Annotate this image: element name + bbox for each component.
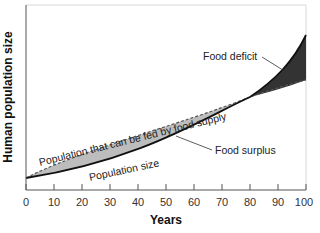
x-tick-labels: 0 10 20 30 40 50 60 70 80 90 100 (23, 196, 313, 208)
x-tick-label: 80 (244, 196, 256, 208)
x-tick-label: 0 (23, 196, 29, 208)
x-tick-label: 20 (76, 196, 88, 208)
x-tick-label: 50 (160, 196, 172, 208)
x-tick-label: 10 (48, 196, 60, 208)
x-tick-label: 60 (188, 196, 200, 208)
x-ticks (26, 184, 306, 190)
y-axis-title: Human population size (1, 31, 15, 163)
food-deficit-label: Food deficit (203, 50, 257, 62)
x-axis-title: Years (150, 213, 182, 227)
x-tick-label: 70 (216, 196, 228, 208)
food-deficit-leader (262, 57, 286, 72)
food-surplus-leader (176, 136, 212, 150)
x-tick-label: 90 (272, 196, 284, 208)
x-tick-label: 30 (104, 196, 116, 208)
food-surplus-label: Food surplus (215, 144, 276, 156)
population-food-chart: 0 10 20 30 40 50 60 70 80 90 100 Years H… (0, 0, 320, 233)
x-tick-label: 100 (295, 196, 313, 208)
x-tick-label: 40 (132, 196, 144, 208)
food-supply-label: Population that can be fed by food suppl… (38, 110, 229, 168)
